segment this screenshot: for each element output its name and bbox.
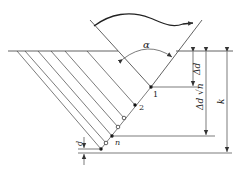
point-2-label: 2 — [139, 103, 144, 112]
point-open-c — [104, 141, 108, 145]
wavy-arrow-icon — [94, 14, 193, 26]
point-n-label: n — [115, 138, 120, 147]
point-1-label: 1 — [153, 90, 158, 99]
dim-delta-d-sqrt-n-label: Δd √n — [195, 83, 205, 111]
tool-v-shape — [90, 20, 202, 87]
dim-k-label: k — [216, 99, 226, 104]
diagram: α 1 2 n Δd Δd √n k d — [0, 0, 245, 179]
dim-d-label: d — [75, 141, 84, 146]
angle-label: α — [143, 39, 150, 50]
parallel-lines — [17, 51, 135, 149]
point-open-a — [122, 116, 126, 120]
angle-arc — [123, 49, 172, 59]
dim-delta-d-label: Δd — [192, 63, 202, 76]
point-open-b — [116, 125, 120, 129]
point-2 — [133, 103, 136, 106]
